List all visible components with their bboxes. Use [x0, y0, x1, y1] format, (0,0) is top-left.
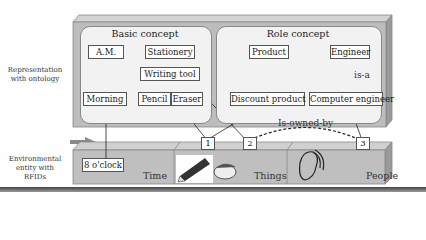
- node-engineer: Engineer: [330, 45, 370, 59]
- is-a-label: is-a: [354, 70, 370, 80]
- section-time: Time: [143, 170, 167, 181]
- time-value-box: 8 o'clock: [82, 158, 124, 172]
- node-pencil: Pencil: [138, 92, 171, 106]
- section-things: Things: [254, 170, 287, 181]
- node-stationery: Stationery: [145, 45, 195, 59]
- basic-concept-title: Basic concept: [80, 28, 210, 39]
- role-concept-title: Role concept: [216, 28, 380, 39]
- node-product: Product: [249, 45, 289, 59]
- is-owned-by-arc: [250, 128, 360, 141]
- node-writing-tool: Writing tool: [140, 67, 200, 81]
- node-discount-product: Discount product: [230, 92, 305, 106]
- is-owned-by-label: Is-owned-by: [278, 118, 333, 128]
- bottom-edge: [0, 187, 426, 192]
- node-morning: Morning: [83, 92, 127, 106]
- node-eraser: Eraser: [171, 92, 203, 106]
- rfid-tag-2: 2: [243, 137, 257, 150]
- section-people: People: [366, 170, 398, 181]
- rfid-tag-1: 1: [201, 137, 215, 150]
- node-computer-engineer: Computer engineer: [309, 92, 383, 106]
- rfid-tag-3: 3: [356, 137, 370, 150]
- node-am: A.M.: [88, 45, 124, 59]
